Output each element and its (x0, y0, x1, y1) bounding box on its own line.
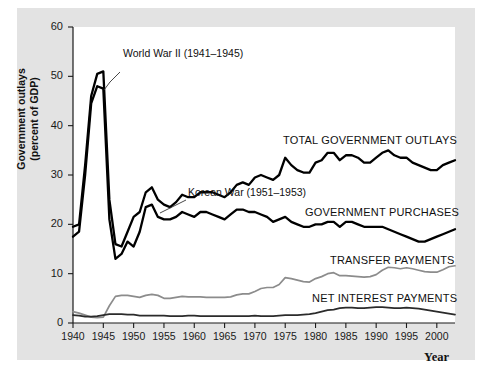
annotation-korean-war: Korean War (1951–1953) (188, 186, 306, 198)
y-tick-label: 20 (39, 217, 63, 229)
x-tick-label: 1965 (208, 330, 242, 342)
x-tick-label: 2000 (420, 330, 454, 342)
y-tick-marks (68, 27, 73, 323)
x-tick-label: 1960 (177, 330, 211, 342)
annotation-world-war-2: World War II (1941–1945) (123, 47, 243, 59)
y-tick-label: 40 (39, 119, 63, 131)
y-tick-label: 30 (39, 168, 63, 180)
series-label-government-purchases: GOVERNMENT PURCHASES (305, 206, 459, 218)
x-tick-label: 1975 (268, 330, 302, 342)
x-tick-label: 1945 (86, 330, 120, 342)
y-tick-label: 0 (39, 316, 63, 328)
x-tick-label: 1995 (389, 330, 423, 342)
figure-container: Government outlays (percent of GDP) 0102… (0, 0, 491, 374)
x-tick-label: 1985 (329, 330, 363, 342)
x-tick-label: 1950 (117, 330, 151, 342)
x-tick-marks (73, 323, 437, 328)
x-axis-label: Year (424, 350, 449, 365)
series-label-transfer-payments: TRANSFER PAYMENTS (330, 254, 455, 266)
x-tick-label: 1990 (359, 330, 393, 342)
x-tick-label: 1970 (238, 330, 272, 342)
y-tick-label: 10 (39, 267, 63, 279)
y-tick-label: 60 (39, 20, 63, 32)
x-tick-label: 1940 (56, 330, 90, 342)
series-label-total-government-outlays: TOTAL GOVERNMENT OUTLAYS (283, 134, 457, 146)
series-label-net-interest-payments: NET INTEREST PAYMENTS (312, 292, 457, 304)
x-tick-label: 1980 (299, 330, 333, 342)
y-tick-label: 50 (39, 69, 63, 81)
x-tick-label: 1955 (147, 330, 181, 342)
